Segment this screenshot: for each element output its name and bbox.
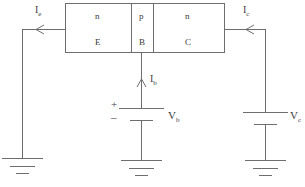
base-voltage-subscript: b <box>176 116 180 124</box>
collector-voltage-label: Vc <box>290 110 301 124</box>
circuit-schematic-canvas <box>0 0 305 187</box>
circuit-diagram: n p n E B C Ie Ic Ib + – Vb Vc <box>0 0 305 187</box>
emitter-terminal-label: E <box>95 38 101 47</box>
base-doping-label: p <box>139 12 144 21</box>
collector-doping-label: n <box>185 12 190 21</box>
base-circuit-wire <box>137 53 146 161</box>
emitter-ground-symbol <box>2 159 43 174</box>
base-current-label: Ib <box>150 74 157 87</box>
emitter-current-label: Ie <box>35 5 41 18</box>
collector-battery-symbol <box>243 113 288 125</box>
emitter-circuit-wire <box>22 25 66 158</box>
collector-circuit-wire <box>225 25 267 160</box>
base-battery-symbol <box>119 109 164 121</box>
collector-terminal-label: C <box>185 38 191 47</box>
base-battery-plus-sign: + <box>111 99 117 110</box>
emitter-doping-label: n <box>95 12 100 21</box>
collector-current-label: Ic <box>243 5 249 18</box>
collector-current-subscript: c <box>246 10 249 18</box>
base-voltage-label: Vb <box>168 110 179 124</box>
base-ground-symbol <box>121 161 162 176</box>
base-battery-minus-sign: – <box>111 112 117 123</box>
base-current-subscript: b <box>153 79 157 87</box>
base-voltage-symbol: V <box>168 109 176 121</box>
collector-ground-symbol <box>245 161 286 176</box>
collector-voltage-symbol: V <box>290 109 298 121</box>
emitter-current-subscript: e <box>38 10 41 18</box>
base-terminal-label: B <box>139 38 145 47</box>
collector-voltage-subscript: c <box>298 116 301 124</box>
